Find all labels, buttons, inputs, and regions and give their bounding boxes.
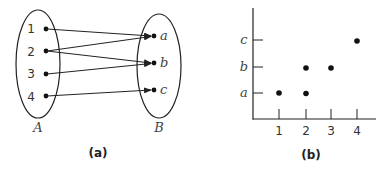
set-a-element-3: 3 bbox=[27, 67, 35, 81]
arrow-3-to-b bbox=[47, 64, 151, 75]
x-tick-label-2: 2 bbox=[302, 124, 310, 138]
arrow-2-to-b bbox=[47, 51, 151, 63]
point-2-b bbox=[303, 65, 309, 71]
point-3-b bbox=[328, 65, 334, 71]
y-tick-label-a: a bbox=[240, 85, 248, 100]
set-a-element-4: 4 bbox=[27, 90, 35, 104]
set-a-element-1: 1 bbox=[27, 22, 35, 36]
set-a-element-2: 2 bbox=[27, 45, 35, 59]
point-1-a bbox=[276, 90, 282, 96]
set-a-ellipse bbox=[16, 10, 60, 118]
arrow-diagram: 1 2 3 4 a b c A B (a) bbox=[16, 10, 181, 160]
set-b-ellipse bbox=[137, 14, 181, 118]
arrow-1-to-a bbox=[47, 29, 151, 36]
y-tick-label-b: b bbox=[240, 59, 248, 74]
point-4-c bbox=[354, 38, 360, 44]
set-b-dot-a bbox=[152, 34, 157, 39]
set-a-label: A bbox=[32, 120, 42, 135]
figure-a-caption: (a) bbox=[88, 146, 107, 160]
point-2-a bbox=[303, 91, 309, 97]
arrow-2-to-a bbox=[47, 37, 151, 52]
set-b-dot-b bbox=[152, 61, 157, 66]
x-tick-label-1: 1 bbox=[275, 124, 283, 138]
x-tick-label-4: 4 bbox=[353, 124, 361, 138]
set-b-label: B bbox=[153, 120, 164, 135]
set-b-element-a: a bbox=[160, 28, 168, 43]
x-tick-label-3: 3 bbox=[327, 124, 335, 138]
set-b-element-c: c bbox=[160, 82, 168, 97]
set-b-element-b: b bbox=[160, 55, 168, 70]
y-tick-label-c: c bbox=[240, 32, 248, 47]
set-b-dot-c bbox=[152, 88, 157, 93]
relation-figure: 1 2 3 4 a b c A B (a) a bbox=[0, 0, 376, 171]
arrow-4-to-c bbox=[47, 90, 151, 96]
relation-graph: a b c 1 2 3 4 (b) bbox=[240, 8, 376, 162]
figure-b-caption: (b) bbox=[301, 148, 321, 162]
